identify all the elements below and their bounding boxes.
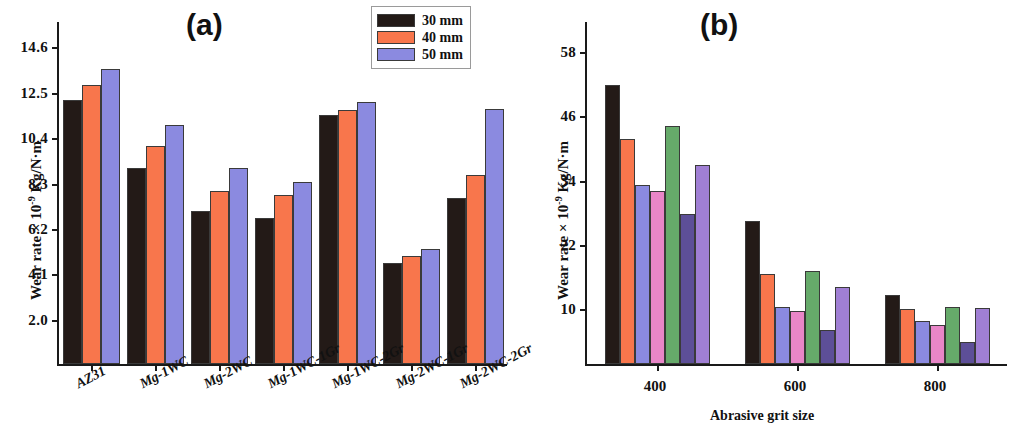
panel-a-legend-swatch-icon xyxy=(377,31,415,44)
panel-a-bar-group xyxy=(383,22,440,364)
panel-a-y-tick-label: 14.6 xyxy=(21,39,48,56)
panel-a-bar-group xyxy=(127,22,184,364)
panel-b-x-axis-title: Abrasive grit size xyxy=(710,408,814,424)
panel-a-legend-label: 50 mm xyxy=(422,47,463,63)
panel-a-y-tick: 2.0 xyxy=(52,320,59,322)
panel-b-bar[interactable] xyxy=(680,214,695,364)
panel-b-bar[interactable] xyxy=(930,325,945,364)
panel-b-bar[interactable] xyxy=(775,307,790,364)
panel-b-bar-group xyxy=(745,22,850,364)
panel-a-legend-item[interactable]: 30 mm xyxy=(377,12,463,29)
panel-a-legend-swatch-icon xyxy=(377,14,415,27)
panel-b-y-tick: 22 xyxy=(580,245,587,247)
panel-a-y-tick-label: 4.1 xyxy=(28,266,48,283)
panel-b-bar[interactable] xyxy=(605,85,620,364)
panel-a-y-tick: 6.2 xyxy=(52,229,59,231)
panel-a-plot-area: 2.04.16.28.310.412.514.6 xyxy=(57,22,507,366)
panel-b-y-tick: 34 xyxy=(580,181,587,183)
panel-b-bar-group xyxy=(885,22,990,364)
panel-b-plot-area: 1022344658 xyxy=(585,22,1007,366)
chart-panel-a: (a) Wear rate × 10-9 Kg/N·m 2.04.16.28.3… xyxy=(0,0,510,440)
panel-a-x-tick-label: AZ31 xyxy=(73,363,109,392)
panel-a-y-tick: 8.3 xyxy=(52,184,59,186)
panel-b-bar[interactable] xyxy=(915,321,930,364)
panel-a-y-axis-title-main: Wear rate × 10 xyxy=(28,205,44,300)
panel-a-y-tick-label: 8.3 xyxy=(28,176,48,193)
panel-b-bar[interactable] xyxy=(805,271,820,364)
panel-a-bar[interactable] xyxy=(485,109,504,364)
panel-b-bar[interactable] xyxy=(885,295,900,364)
panel-a-y-tick: 14.6 xyxy=(52,47,59,49)
panel-a-bar-group xyxy=(255,22,312,364)
panel-b-bar[interactable] xyxy=(975,308,990,364)
panel-a-bar[interactable] xyxy=(63,100,82,364)
panel-a-bar-group xyxy=(191,22,248,364)
panel-a-bar[interactable] xyxy=(210,191,229,364)
panel-a-bar[interactable] xyxy=(82,85,101,364)
panel-b-y-tick: 10 xyxy=(580,309,587,311)
panel-a-y-tick-label: 6.2 xyxy=(28,221,48,238)
panel-b-bar[interactable] xyxy=(745,221,760,364)
panel-b-x-tick xyxy=(937,364,939,371)
panel-b-x-tick-label: 400 xyxy=(633,378,677,395)
panel-a-bar[interactable] xyxy=(165,125,184,364)
panel-b-bar[interactable] xyxy=(620,139,635,364)
panel-b-x-tick-label: 600 xyxy=(773,378,817,395)
panel-a-bar-group xyxy=(447,22,504,364)
chart-panel-b: (b) Wear rate × 10-9 Kg/N·m 1022344658 A… xyxy=(505,0,1015,440)
panel-a-bar[interactable] xyxy=(338,110,357,364)
panel-a-bar[interactable] xyxy=(146,146,165,364)
panel-a-bar[interactable] xyxy=(229,168,248,364)
panel-b-bar[interactable] xyxy=(820,330,835,364)
panel-a-bar[interactable] xyxy=(255,218,274,364)
panel-a-bar[interactable] xyxy=(447,198,466,364)
panel-a-bar[interactable] xyxy=(274,195,293,364)
panel-b-x-tick xyxy=(797,364,799,371)
panel-a-bar[interactable] xyxy=(466,175,485,364)
wear-rate-figure: (a) Wear rate × 10-9 Kg/N·m 2.04.16.28.3… xyxy=(0,0,1015,440)
panel-b-bar[interactable] xyxy=(835,287,850,364)
panel-a-bar[interactable] xyxy=(101,69,120,364)
panel-a-y-tick-label: 2.0 xyxy=(28,312,48,329)
panel-b-bar[interactable] xyxy=(695,165,710,364)
panel-b-y-tick: 58 xyxy=(580,52,587,54)
panel-b-bar[interactable] xyxy=(760,274,775,364)
panel-b-bar[interactable] xyxy=(960,342,975,364)
panel-b-bar[interactable] xyxy=(945,307,960,364)
panel-a-y-tick-label: 10.4 xyxy=(21,130,48,147)
panel-b-y-tick-label: 10 xyxy=(560,301,576,318)
panel-b-y-tick-label: 46 xyxy=(560,108,576,125)
panel-a-bars xyxy=(59,22,507,364)
panel-a-legend-item[interactable]: 40 mm xyxy=(377,29,463,46)
panel-a-y-tick-label: 12.5 xyxy=(21,85,48,102)
panel-a-bar[interactable] xyxy=(421,249,440,364)
panel-b-bar[interactable] xyxy=(790,311,805,364)
panel-b-x-tick xyxy=(657,364,659,371)
panel-b-y-tick-label: 58 xyxy=(560,44,576,61)
panel-a-legend: 30 mm40 mm50 mm xyxy=(371,6,471,69)
panel-a-bar[interactable] xyxy=(127,168,146,364)
panel-a-y-tick: 10.4 xyxy=(52,138,59,140)
panel-b-bar-group xyxy=(605,22,710,364)
panel-b-bar[interactable] xyxy=(900,309,915,364)
panel-a-bar[interactable] xyxy=(319,115,338,364)
panel-a-bar[interactable] xyxy=(293,182,312,364)
panel-a-y-tick: 4.1 xyxy=(52,274,59,276)
panel-b-y-axis-title: Wear rate × 10-9 Kg/N·m xyxy=(553,141,572,300)
panel-b-bar[interactable] xyxy=(665,126,680,364)
panel-a-bar[interactable] xyxy=(402,256,421,364)
panel-b-bar[interactable] xyxy=(635,185,650,364)
panel-a-y-axis-exponent: -9 xyxy=(26,196,37,204)
panel-b-y-tick-label: 34 xyxy=(560,173,576,190)
panel-a-legend-label: 40 mm xyxy=(422,30,463,46)
panel-a-bar[interactable] xyxy=(357,102,376,364)
panel-b-y-tick: 46 xyxy=(580,116,587,118)
panel-a-legend-item[interactable]: 50 mm xyxy=(377,46,463,63)
panel-b-bar[interactable] xyxy=(650,191,665,364)
panel-b-x-tick-label: 800 xyxy=(913,378,957,395)
panel-a-bar[interactable] xyxy=(191,211,210,364)
panel-a-bar-group xyxy=(63,22,120,364)
panel-b-y-tick-label: 22 xyxy=(560,237,576,254)
panel-a-bar-group xyxy=(319,22,376,364)
panel-a-y-tick: 12.5 xyxy=(52,93,59,95)
